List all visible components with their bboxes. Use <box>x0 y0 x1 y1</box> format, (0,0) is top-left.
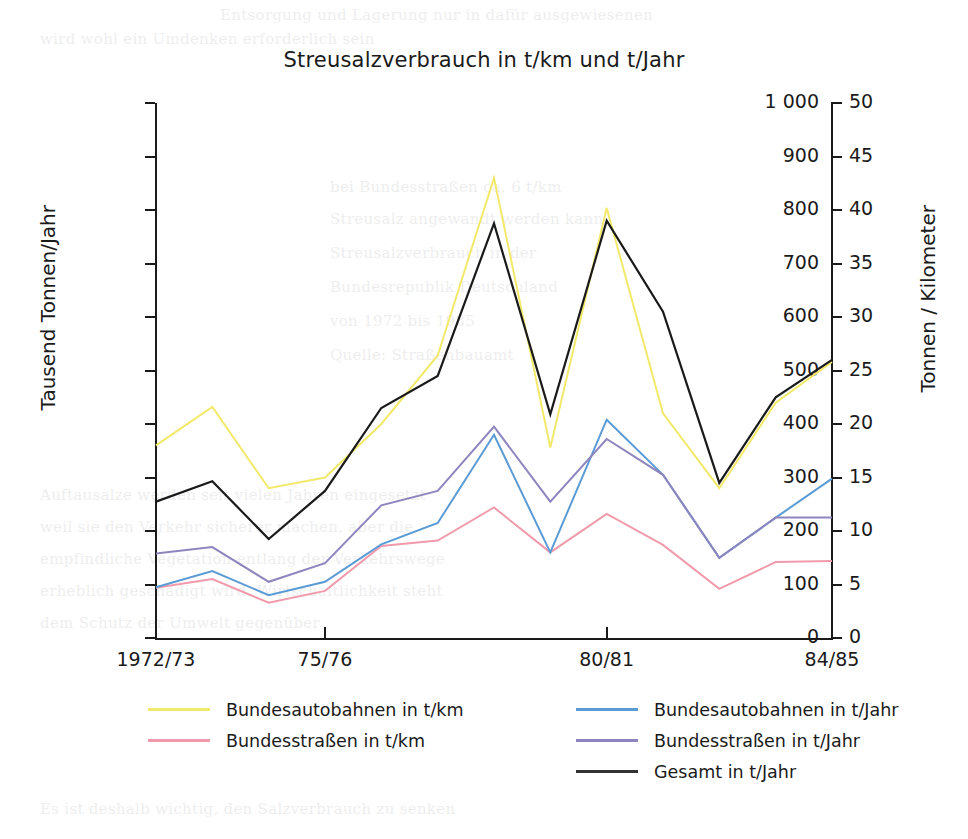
y-tick-label-right: 20 <box>849 411 873 433</box>
legend-label: Gesamt in t/Jahr <box>654 762 796 782</box>
legend-column-right: Bundesautobahnen in t/JahrBundesstraßen … <box>576 694 898 787</box>
y-tick-label-right: 15 <box>849 465 873 487</box>
legend-color-swatch <box>148 708 210 711</box>
y-tick-label-right: 40 <box>849 197 873 219</box>
y-tick-left <box>145 263 155 265</box>
x-tick-label: 75/76 <box>298 648 353 670</box>
chart-figure: Streusalzverbrauch in t/km und t/Jahr Ta… <box>0 0 968 839</box>
y-tick-label-right: 35 <box>849 251 873 273</box>
legend-label: Bundesstraßen in t/Jahr <box>654 731 860 751</box>
y-tick-left <box>145 370 155 372</box>
x-tick-label: 1972/73 <box>117 648 196 670</box>
legend-label: Bundesautobahnen in t/km <box>226 700 463 720</box>
legend-item[interactable]: Bundesstraßen in t/km <box>148 725 463 756</box>
legend-item[interactable]: Bundesautobahnen in t/Jahr <box>576 694 898 725</box>
legend-color-swatch <box>576 770 638 773</box>
y-tick-left <box>145 102 155 104</box>
chart-legend: Bundesautobahnen in t/kmBundesstraßen in… <box>0 694 968 804</box>
y-axis-right-title: Tonnen / Kilometer <box>916 205 940 392</box>
legend-label: Bundesautobahnen in t/Jahr <box>654 700 898 720</box>
series-line <box>156 221 832 539</box>
y-tick-left <box>145 584 155 586</box>
x-tick-label: 84/85 <box>805 648 860 670</box>
y-tick-left <box>145 530 155 532</box>
y-tick-label-right: 50 <box>849 90 873 112</box>
y-axis-left-title: Tausend Tonnen/Jahr <box>36 205 60 410</box>
chart-title: Streusalzverbrauch in t/km und t/Jahr <box>0 48 968 72</box>
y-tick-label-right: 25 <box>849 358 873 380</box>
y-tick-label-right: 30 <box>849 304 873 326</box>
y-tick-left <box>145 156 155 158</box>
series-lines <box>155 103 833 640</box>
legend-color-swatch <box>576 708 638 711</box>
legend-color-swatch <box>576 739 638 742</box>
y-tick-left <box>145 423 155 425</box>
y-tick-label-right: 0 <box>849 625 861 647</box>
y-tick-left <box>145 477 155 479</box>
legend-label: Bundesstraßen in t/km <box>226 731 425 751</box>
legend-column-left: Bundesautobahnen in t/kmBundesstraßen in… <box>148 694 463 756</box>
legend-item[interactable]: Gesamt in t/Jahr <box>576 756 898 787</box>
y-tick-left <box>145 209 155 211</box>
series-line <box>156 508 832 603</box>
y-tick-label-right: 10 <box>849 518 873 540</box>
y-tick-label-right: 5 <box>849 572 861 594</box>
y-tick-label-right: 45 <box>849 144 873 166</box>
legend-item[interactable]: Bundesautobahnen in t/km <box>148 694 463 725</box>
series-line <box>156 427 832 582</box>
plot-area: 01002003004005006007008009001 000 051015… <box>155 103 833 640</box>
x-tick-label: 80/81 <box>579 648 634 670</box>
y-tick-left <box>145 637 155 639</box>
y-tick-left <box>145 316 155 318</box>
legend-item[interactable]: Bundesstraßen in t/Jahr <box>576 725 898 756</box>
legend-color-swatch <box>148 739 210 742</box>
